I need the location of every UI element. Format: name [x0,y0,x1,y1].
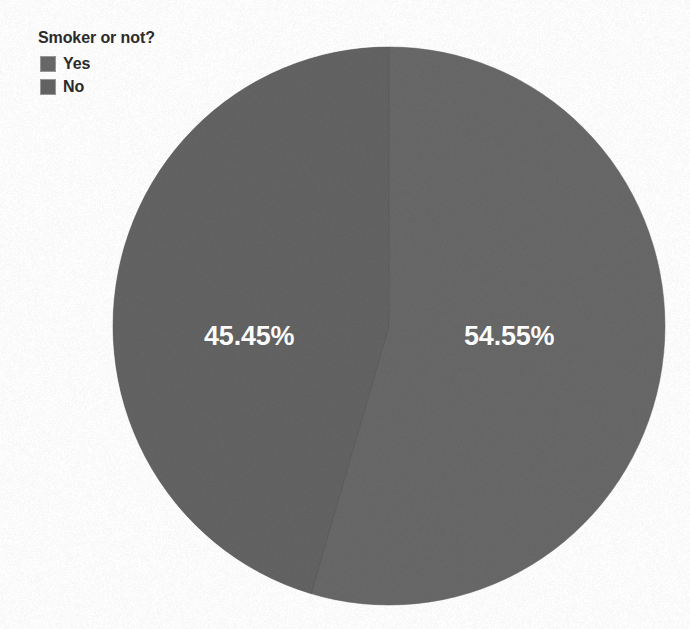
legend-item-yes[interactable]: Yes [40,52,155,75]
legend-swatch-icon-yes [40,56,56,72]
legend-item-label-no: No [63,78,84,96]
legend-item-no[interactable]: No [40,75,155,98]
legend-swatch-icon-no [40,79,56,95]
slice-value-label-no: 45.45% [204,321,294,352]
slice-value-label-yes: 54.55% [464,321,554,352]
legend: Smoker or not? Yes No [38,28,155,98]
legend-item-label-yes: Yes [63,55,90,73]
legend-title: Smoker or not? [38,28,155,47]
